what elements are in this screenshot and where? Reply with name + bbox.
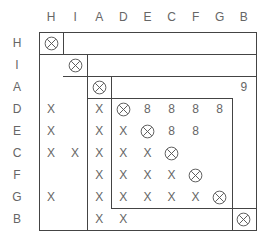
diagonal-circled-x-icon	[208, 186, 232, 208]
dependency-value: 8	[184, 98, 208, 120]
block-border	[111, 76, 112, 99]
row-header: I	[7, 58, 27, 72]
dependency-mark: X	[39, 98, 63, 120]
dependency-mark: X	[39, 186, 63, 208]
dependency-mark: X	[87, 98, 111, 120]
column-header: F	[186, 10, 206, 24]
dependency-mark: X	[111, 186, 135, 208]
block-border	[39, 54, 257, 55]
column-header: H	[41, 10, 61, 24]
dependency-value: 8	[208, 98, 232, 120]
dependency-mark: X	[135, 142, 159, 164]
diagonal-circled-x-icon	[184, 164, 208, 186]
dependency-mark: X	[160, 186, 184, 208]
block-border	[87, 54, 88, 231]
dependency-mark: X	[111, 120, 135, 142]
dependency-mark: X	[111, 142, 135, 164]
block-border	[39, 32, 257, 33]
block-border	[39, 230, 257, 231]
block-border	[87, 76, 257, 77]
dependency-value: 8	[184, 120, 208, 142]
row-header: D	[7, 102, 27, 116]
dependency-mark: X	[87, 208, 111, 230]
column-header: B	[234, 10, 254, 24]
column-header: E	[137, 10, 157, 24]
column-header: D	[113, 10, 133, 24]
dependency-mark: X	[111, 164, 135, 186]
dependency-value: 8	[135, 98, 159, 120]
column-header: C	[162, 10, 182, 24]
row-header: G	[7, 190, 27, 204]
block-border	[232, 98, 233, 231]
row-header: H	[7, 36, 27, 50]
column-header: G	[210, 10, 230, 24]
block-border	[256, 32, 257, 231]
dependency-mark: X	[87, 120, 111, 142]
block-border	[39, 32, 40, 231]
row-header: E	[7, 124, 27, 138]
diagonal-circled-x-icon	[63, 54, 87, 76]
diagonal-circled-x-icon	[87, 76, 111, 98]
dependency-mark: X	[39, 120, 63, 142]
row-header: B	[7, 212, 27, 226]
diagonal-circled-x-icon	[111, 98, 135, 120]
row-header: F	[7, 168, 27, 182]
block-border	[111, 98, 233, 99]
dependency-mark: X	[87, 186, 111, 208]
dependency-mark: X	[39, 142, 63, 164]
dependency-mark: X	[184, 186, 208, 208]
diagonal-circled-x-icon	[232, 208, 256, 230]
row-header: A	[7, 80, 27, 94]
dependency-mark: X	[135, 186, 159, 208]
dependency-mark: X	[87, 142, 111, 164]
block-border	[87, 98, 112, 99]
block-border	[63, 76, 88, 77]
diagonal-circled-x-icon	[135, 120, 159, 142]
dependency-mark: X	[63, 142, 87, 164]
dependency-mark: X	[160, 164, 184, 186]
block-border	[63, 32, 64, 55]
row-header: C	[7, 146, 27, 160]
block-border	[111, 98, 112, 209]
diagonal-circled-x-icon	[39, 32, 63, 54]
dependency-value: 8	[160, 120, 184, 142]
dependency-mark: X	[135, 164, 159, 186]
dependency-mark: X	[87, 164, 111, 186]
column-header: A	[89, 10, 109, 24]
dependency-mark: X	[111, 208, 135, 230]
dependency-value: 9	[232, 76, 256, 98]
column-header: I	[65, 10, 85, 24]
block-border	[111, 208, 257, 209]
diagonal-circled-x-icon	[160, 142, 184, 164]
dependency-value: 8	[160, 98, 184, 120]
